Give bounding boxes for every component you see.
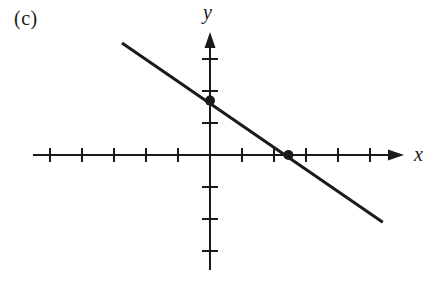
y-axis-arrowhead [205, 32, 216, 48]
y-axis-label: y [203, 2, 212, 22]
panel-label: (c) [14, 8, 38, 28]
marked-point [205, 96, 215, 106]
x-axis-arrowhead [388, 150, 404, 161]
graph-figure: (c) x y [0, 0, 437, 283]
marked-point [283, 150, 293, 160]
coordinate-plane [0, 0, 437, 283]
line-segment [122, 43, 383, 222]
plotted-line [122, 43, 383, 222]
x-axis-label: x [414, 144, 423, 164]
x-axis [33, 150, 404, 161]
y-axis [205, 32, 216, 270]
